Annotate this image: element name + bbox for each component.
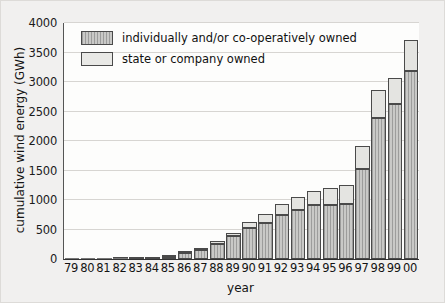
- bar-segment-state-or-company-owned: [355, 146, 370, 169]
- x-tick-label-79: 79: [63, 261, 79, 275]
- plot-area: individually and/or co-operatively owned…: [63, 23, 419, 260]
- bar-84[interactable]: [145, 258, 160, 259]
- bar-93[interactable]: [291, 197, 306, 259]
- bar-82[interactable]: [113, 258, 128, 259]
- y-tick-label: 0: [1, 252, 57, 266]
- bar-segment-state-or-company-owned: [242, 222, 257, 227]
- bar-segment-state-or-company-owned: [210, 241, 225, 243]
- bar-segment-individually-owned: [275, 215, 290, 259]
- y-tick-label: 1000: [1, 193, 57, 207]
- bar-segment-state-or-company-owned: [339, 185, 354, 204]
- bar-89[interactable]: [226, 233, 241, 259]
- x-tick-label-87: 87: [192, 261, 208, 275]
- bar-segment-individually-owned: [162, 257, 177, 259]
- bar-79[interactable]: [65, 258, 80, 259]
- bar-80[interactable]: [81, 258, 96, 259]
- bar-segment-zero: [113, 258, 128, 259]
- x-tick-label-95: 95: [321, 261, 337, 275]
- y-tick-label: 2000: [1, 134, 57, 148]
- legend-swatch-hatched-icon: [81, 31, 113, 45]
- bar-segment-zero: [81, 258, 96, 259]
- bar-segment-state-or-company-owned: [275, 204, 290, 216]
- bar-88[interactable]: [210, 241, 225, 259]
- bar-segment-individually-owned: [210, 244, 225, 259]
- x-tick-label-99: 99: [386, 261, 402, 275]
- bar-segment-zero: [97, 258, 112, 259]
- chart-legend: individually and/or co-operatively owned…: [81, 30, 357, 72]
- x-tick-label-91: 91: [257, 261, 273, 275]
- bar-segment-individually-owned: [226, 236, 241, 259]
- bar-segment-state-or-company-owned: [404, 40, 419, 71]
- x-tick-label-81: 81: [95, 261, 111, 275]
- x-tick-label-89: 89: [224, 261, 240, 275]
- x-tick-label-94: 94: [305, 261, 321, 275]
- legend-label: individually and/or co-operatively owned: [122, 31, 357, 45]
- bar-segment-state-or-company-owned: [371, 90, 386, 118]
- y-tick-label: 3000: [1, 75, 57, 89]
- bar-99[interactable]: [388, 78, 403, 259]
- bar-segment-state-or-company-owned: [388, 78, 403, 104]
- x-tick-label-85: 85: [160, 261, 176, 275]
- bar-segment-individually-owned: [388, 104, 403, 259]
- bar-segment-state-or-company-owned: [194, 248, 209, 250]
- y-tick-label: 2500: [1, 105, 57, 119]
- legend-label: state or company owned: [122, 52, 265, 66]
- bar-segment-individually-owned: [242, 228, 257, 259]
- y-axis-title: cumulative wind energy (GWh): [13, 35, 27, 245]
- bar-segment-individually-owned: [371, 118, 386, 259]
- bar-91[interactable]: [258, 214, 273, 259]
- bar-segment-individually-owned: [129, 257, 144, 259]
- legend-item-state-or-company-owned[interactable]: state or company owned: [81, 51, 357, 67]
- bar-segment-individually-owned: [355, 169, 370, 259]
- bar-92[interactable]: [275, 204, 290, 259]
- x-axis-tick-labels: 7980818283848586878889909192939495969798…: [63, 261, 418, 279]
- chart-figure: 05001000150020002500300035004000 cumulat…: [0, 0, 445, 303]
- bar-00[interactable]: [404, 40, 419, 259]
- bar-segment-state-or-company-owned: [291, 197, 306, 210]
- bar-segment-state-or-company-owned: [258, 214, 273, 223]
- bar-segment-individually-owned: [323, 205, 338, 259]
- x-tick-label-97: 97: [353, 261, 369, 275]
- y-tick-label: 1500: [1, 164, 57, 178]
- bar-segment-individually-owned: [194, 250, 209, 259]
- bar-segment-state-or-company-owned: [178, 251, 193, 253]
- x-tick-label-93: 93: [289, 261, 305, 275]
- bar-segment-individually-owned: [258, 223, 273, 259]
- gridline: [64, 111, 419, 112]
- bar-segment-individually-owned: [339, 204, 354, 259]
- x-tick-label-80: 80: [79, 261, 95, 275]
- bar-81[interactable]: [97, 258, 112, 259]
- x-tick-label-00: 00: [402, 261, 418, 275]
- y-tick-label: 3500: [1, 46, 57, 60]
- x-tick-label-84: 84: [144, 261, 160, 275]
- x-tick-label-83: 83: [128, 261, 144, 275]
- bar-segment-zero: [65, 258, 80, 259]
- bar-segment-individually-owned: [404, 71, 419, 260]
- legend-swatch-plain-icon: [81, 52, 113, 66]
- bar-98[interactable]: [371, 90, 386, 259]
- bar-83[interactable]: [129, 258, 144, 259]
- gridline: [64, 22, 419, 23]
- bar-segment-individually-owned: [145, 257, 160, 259]
- bar-95[interactable]: [323, 188, 338, 259]
- x-tick-label-96: 96: [337, 261, 353, 275]
- bar-97[interactable]: [355, 146, 370, 259]
- bar-segment-individually-owned: [291, 210, 306, 259]
- bar-94[interactable]: [307, 191, 322, 259]
- legend-item-individually-owned[interactable]: individually and/or co-operatively owned: [81, 30, 357, 46]
- bar-segment-state-or-company-owned: [307, 191, 322, 206]
- y-tick-label: 4000: [1, 16, 57, 30]
- bar-segment-individually-owned: [307, 205, 322, 259]
- bar-segment-state-or-company-owned: [162, 255, 177, 257]
- bar-90[interactable]: [242, 222, 257, 259]
- bar-96[interactable]: [339, 185, 354, 259]
- bar-segment-state-or-company-owned: [323, 188, 338, 206]
- bar-segment-individually-owned: [178, 253, 193, 259]
- y-tick-label: 500: [1, 223, 57, 237]
- bar-86[interactable]: [178, 251, 193, 259]
- bar-85[interactable]: [162, 256, 177, 259]
- gridline: [64, 140, 419, 141]
- bar-87[interactable]: [194, 248, 209, 259]
- x-axis-title: year: [63, 281, 418, 295]
- y-axis-tick-labels: 05001000150020002500300035004000: [1, 1, 59, 303]
